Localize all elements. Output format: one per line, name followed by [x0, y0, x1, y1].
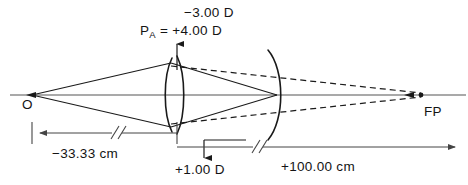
object-point-label: O: [22, 98, 33, 112]
dim-break-mark-object-a: [111, 126, 119, 139]
secondary-power-label: −3.00 D: [184, 6, 234, 20]
equivalent-power-label: PA = +4.00 D: [140, 24, 222, 38]
power-pa-prefix: P: [140, 23, 149, 38]
lens-power-label: +1.00 D: [175, 163, 225, 177]
ray-upper-virtual: [171, 66, 421, 93]
focal-point-dot: [419, 93, 424, 98]
focal-point-label: FP: [424, 105, 442, 119]
ray-upper-refracted: [171, 63, 277, 95]
ray-lower-refracted: [171, 95, 277, 127]
optics-ray-diagram: −3.00 D PA = +4.00 D O FP −33.33 cm +1.0…: [0, 0, 468, 185]
ray-lower-virtual: [171, 97, 421, 124]
dim-break-mark-image-a: [252, 140, 260, 153]
object-distance-label: −33.33 cm: [52, 147, 118, 161]
power-pa-value: = +4.00 D: [156, 23, 222, 38]
focal-point-arrowhead: [404, 92, 414, 98]
ray-upper-incident: [32, 63, 171, 95]
ray-lower-incident: [32, 95, 171, 127]
power-pa-subscript: A: [149, 29, 156, 40]
image-distance-label: +100.00 cm: [281, 160, 355, 174]
